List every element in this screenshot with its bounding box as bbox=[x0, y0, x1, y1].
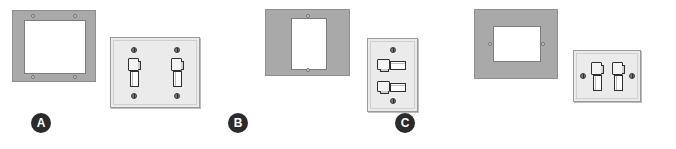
toggle-lever-icon bbox=[171, 58, 182, 71]
toggle-body-icon bbox=[390, 61, 406, 70]
plaster-ring-a bbox=[12, 10, 96, 82]
toggle-body-icon bbox=[390, 83, 406, 92]
ring-opening-a bbox=[24, 20, 86, 74]
figure-canvas: A B bbox=[0, 0, 676, 149]
ring-screw-b-top bbox=[306, 14, 310, 18]
plaster-ring-b bbox=[265, 9, 350, 76]
copyright-notice: Copyright © Cengage Learning® bbox=[666, 0, 675, 4]
ring-screw-a-bottom-left bbox=[31, 75, 35, 79]
ring-screw-a-top-right bbox=[73, 14, 77, 18]
toggle-lever-icon bbox=[377, 59, 390, 70]
ring-screw-a-top-left bbox=[31, 14, 35, 18]
switch-plate-a bbox=[110, 37, 200, 108]
toggle-switch-b-upper[interactable] bbox=[377, 58, 407, 72]
switch-plate-b bbox=[367, 38, 418, 112]
plate-screw-a-bottom-left bbox=[131, 93, 137, 99]
ring-screw-c-left bbox=[488, 42, 492, 46]
ring-opening-c bbox=[493, 26, 541, 62]
ring-screw-a-bottom-right bbox=[73, 75, 77, 79]
plate-screw-b-bottom bbox=[390, 98, 396, 104]
toggle-lever-icon bbox=[128, 58, 139, 71]
plate-screw-a-bottom-right bbox=[174, 93, 180, 99]
label-badge-b: B bbox=[228, 113, 248, 133]
plate-screw-a-top-left bbox=[131, 47, 137, 53]
ring-screw-c-right bbox=[541, 42, 545, 46]
toggle-switch-c-left[interactable] bbox=[591, 62, 605, 92]
toggle-lever-icon bbox=[591, 62, 602, 75]
toggle-lever-icon bbox=[377, 81, 390, 92]
toggle-lever-icon bbox=[612, 62, 623, 75]
plate-screw-c-left bbox=[580, 73, 586, 79]
plaster-ring-c bbox=[474, 9, 558, 79]
toggle-switch-c-right[interactable] bbox=[612, 62, 626, 92]
toggle-body-icon bbox=[614, 75, 623, 91]
toggle-switch-a-right[interactable] bbox=[171, 58, 185, 88]
plate-screw-c-right bbox=[629, 73, 635, 79]
plate-screw-a-top-right bbox=[174, 47, 180, 53]
toggle-body-icon bbox=[593, 75, 602, 91]
toggle-switch-b-lower[interactable] bbox=[377, 80, 407, 94]
toggle-body-icon bbox=[173, 71, 182, 87]
toggle-body-icon bbox=[130, 71, 139, 87]
label-badge-c: C bbox=[395, 113, 415, 133]
ring-screw-b-bottom bbox=[306, 68, 310, 72]
switch-plate-c bbox=[573, 50, 641, 102]
plate-screw-b-top bbox=[390, 47, 396, 53]
ring-opening-b bbox=[291, 18, 327, 70]
toggle-switch-a-left[interactable] bbox=[128, 58, 142, 88]
label-badge-a: A bbox=[31, 113, 51, 133]
